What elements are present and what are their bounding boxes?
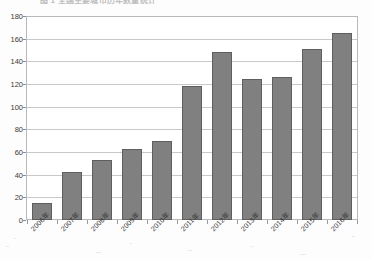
y-axis-tick [23,61,26,62]
scan-speckle [14,238,16,239]
bar-series [27,17,357,220]
bar-chart: 020406080100120140160180 2006年2007年2008年… [0,0,372,260]
y-axis-tick [23,84,26,85]
y-axis-ticks [0,16,30,220]
y-axis-tick [23,197,26,198]
x-axis-labels: 2006年2007年2008年2009年2010年2011年2012年2013年… [26,224,358,258]
scan-speckle [96,252,101,253]
bar [212,52,232,220]
bar [152,141,172,220]
y-axis-tick [23,129,26,130]
scan-speckle [6,246,9,247]
scan-speckle [188,250,192,251]
y-axis-tick [23,39,26,40]
scan-speckle [300,254,306,255]
bar [182,86,202,220]
scanned-page: 图 1 全国主要城市历年数量统计 02040608010012014016018… [0,0,372,260]
y-axis-tick [23,107,26,108]
bar [242,79,262,220]
bar [122,149,142,220]
bar [332,33,352,220]
y-axis-tick [23,152,26,153]
scan-speckle [250,246,253,247]
scan-speckle [352,236,355,237]
scan-speckle [130,243,132,244]
bar [272,77,292,220]
y-axis-tick [23,16,26,17]
y-axis-tick [23,175,26,176]
bar [302,49,322,220]
